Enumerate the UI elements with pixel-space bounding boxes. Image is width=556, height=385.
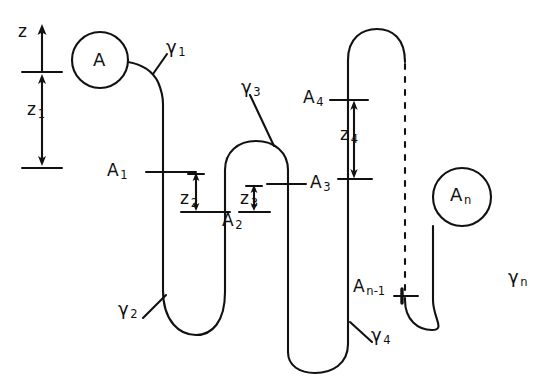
figure-root: z z1 z2 z3 z4 A A1 A2 A3 A4 An-1 An γ1 γ…: [0, 0, 556, 385]
node-label-A2: A2: [222, 212, 243, 232]
gamma1-leader-line: [153, 54, 167, 74]
measure-label-z3: z3: [240, 190, 258, 210]
turn-label-gamma4: γ4: [371, 326, 391, 347]
gamma2-leader-line: [143, 295, 166, 318]
measure-label-z1: z1: [27, 101, 45, 121]
turn-label-gamma2: γ2: [118, 300, 138, 321]
strand-2-arch-path: [225, 141, 288, 352]
turn-label-gamma-n: γn: [508, 268, 528, 289]
node-label-A1: A1: [107, 162, 128, 182]
node-label-A4: A4: [303, 89, 324, 109]
z-axis-group: [22, 24, 62, 168]
measure-label-z2: z2: [180, 190, 198, 210]
node-label-A3: A3: [310, 174, 331, 194]
node-label-A: A: [93, 51, 107, 72]
node-label-An: An: [450, 186, 471, 207]
axis-label-z: z: [18, 23, 29, 43]
gamma3-leader-line: [250, 95, 274, 146]
turn-label-gamma1: γ1: [166, 38, 186, 59]
tall-arch-top-path: [348, 29, 405, 62]
turn-label-gamma3: γ3: [241, 78, 261, 99]
chain-diagram-svg: [0, 0, 556, 385]
node-label-An-1: An-1: [353, 278, 385, 298]
strand-1-path: [128, 62, 163, 290]
gamma4-leader-line: [350, 322, 372, 342]
measure-label-z4: z4: [340, 126, 358, 146]
bottom-turn-n-path: [405, 226, 438, 330]
bottom-turn-1-path: [163, 290, 225, 335]
